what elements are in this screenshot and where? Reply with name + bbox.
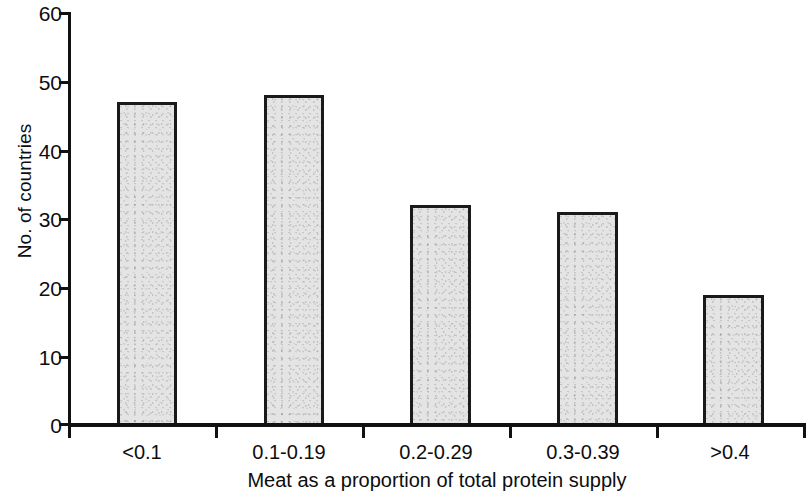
x-axis-title: Meat as a proportion of total protein su… [68,468,806,492]
bar-chart-figure: No. of countries 60 50 40 30 20 10 0 <0.… [0,0,808,496]
x-tick-mark-4 [656,427,659,438]
x-tick-mark-3 [509,427,512,438]
x-tick-label-0-1-to-0-19: 0.1-0.19 [239,440,339,464]
x-axis-tick-labels: <0.1 0.1-0.19 0.2-0.29 0.3-0.39 >0.4 [0,440,808,470]
x-tick-mark-1 [215,427,218,438]
bar-0-1-to-0-19 [264,95,324,426]
bar-lt-0-1 [117,102,177,426]
bar-gt-0-4 [703,295,764,426]
x-tick-label-0-3-to-0-39: 0.3-0.39 [533,440,633,464]
x-axis-line [68,423,806,427]
x-tick-label-0-2-to-0-29: 0.2-0.29 [386,440,486,464]
x-tick-mark-0 [68,427,71,438]
x-tick-label-gt-0-4: >0.4 [680,440,780,464]
bar-0-3-to-0-39 [557,212,618,426]
bar-0-2-to-0-29 [410,205,471,426]
x-tick-mark-5 [803,427,806,438]
bars-layer [0,0,808,496]
x-tick-label-lt-0-1: <0.1 [92,440,192,464]
x-tick-mark-2 [362,427,365,438]
